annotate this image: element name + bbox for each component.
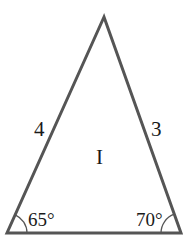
angle-label-bottom-right: 70° — [136, 209, 163, 230]
side-label-right: 3 — [151, 117, 162, 141]
angle-arc-bottom-left — [15, 215, 27, 233]
angle-arc-bottom-right — [161, 214, 174, 233]
angle-label-bottom-left: 65° — [28, 209, 55, 230]
side-label-left: 4 — [34, 117, 45, 141]
region-label: I — [96, 145, 103, 169]
triangle-diagram: 4 3 I 65° 70° — [0, 0, 191, 244]
